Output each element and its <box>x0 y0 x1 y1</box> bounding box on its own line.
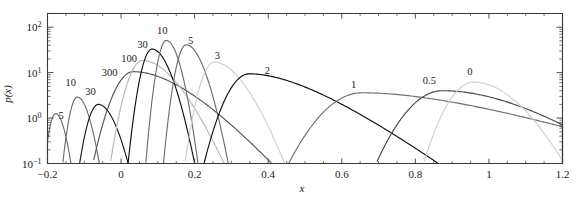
x-tick-label: 1 <box>486 168 492 180</box>
x-axis-title: x <box>299 182 305 194</box>
curve-label: 1 <box>351 79 356 90</box>
curve-label: 100 <box>121 53 137 64</box>
curve-label: 5 <box>188 35 193 46</box>
data-curve <box>377 91 562 164</box>
x-tick-label: 0 <box>118 168 124 180</box>
data-curve <box>185 62 284 163</box>
plot-frame <box>48 14 563 164</box>
x-tick-label: 0.2 <box>188 168 202 180</box>
data-curve <box>289 93 563 164</box>
x-tick-label: 1.2 <box>556 168 570 180</box>
curve-label: 300 <box>102 67 118 78</box>
x-tick-label: 0.4 <box>261 168 275 180</box>
data-curve <box>111 60 224 163</box>
x-tick-label: 0.6 <box>335 168 349 180</box>
curve-label: 5 <box>58 110 63 121</box>
y-tick-label: 101 <box>27 66 42 79</box>
data-curve <box>204 74 438 164</box>
log-linear-distribution-plot: −0.200.20.40.60.811.210−1100101102 51030… <box>0 0 585 197</box>
data-curve <box>48 114 72 164</box>
x-tick-label: 0.8 <box>408 168 422 180</box>
plot-axes <box>48 14 563 164</box>
y-axis-title: p(x) <box>1 85 14 104</box>
axis-tick-labels: −0.200.20.40.60.811.210−1100101102 <box>22 20 569 179</box>
data-curve <box>94 72 273 164</box>
x-tick-label: −0.2 <box>38 168 58 180</box>
figure-container: −0.200.20.40.60.811.210−1100101102 51030… <box>0 0 585 197</box>
data-curve <box>128 49 195 163</box>
curve-label: 10 <box>157 25 168 36</box>
curve-label: 30 <box>85 86 96 97</box>
curve-label: 0.5 <box>423 75 436 86</box>
y-tick-label: 102 <box>27 20 42 33</box>
curve-label: 10 <box>65 77 76 88</box>
data-curve <box>424 82 562 163</box>
curve-label: 3 <box>215 50 220 61</box>
curve-label: 0 <box>467 66 472 77</box>
curve-label: 2 <box>265 65 270 76</box>
curve-label: 30 <box>137 39 148 50</box>
y-tick-label: 100 <box>27 111 42 124</box>
data-curve <box>80 104 128 163</box>
